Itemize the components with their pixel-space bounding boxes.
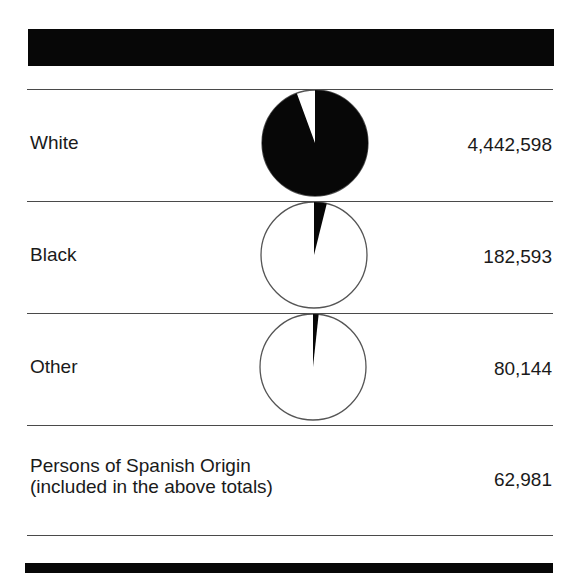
row-label-other: Other (30, 356, 78, 377)
footer-bar (25, 563, 553, 573)
spanish-origin-label-line2: (included in the above totals) (30, 476, 273, 497)
row-label-white: White (30, 132, 79, 153)
spanish-origin-label: Persons of Spanish Origin (included in t… (30, 455, 273, 497)
row-value-white: 4,442,598 (467, 134, 552, 156)
spanish-origin-label-line1: Persons of Spanish Origin (30, 455, 273, 476)
pie-white-slice (262, 90, 368, 196)
spanish-origin-value: 62,981 (494, 469, 552, 491)
row-value-black: 182,593 (483, 246, 552, 268)
row-value-other: 80,144 (494, 358, 552, 380)
row-label-black: Black (30, 244, 76, 265)
